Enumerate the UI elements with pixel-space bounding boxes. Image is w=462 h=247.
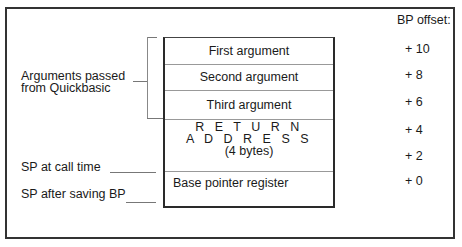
stack-row-first-argument: First argument: [165, 38, 333, 65]
sp-call-pointer-line: [110, 172, 156, 173]
stack-row-base-pointer: Base pointer register: [165, 173, 333, 207]
arguments-passed-label: Arguments passed from Quickbasic: [21, 70, 125, 94]
offset-8: + 8: [405, 68, 423, 82]
stack-row-second-argument: Second argument: [165, 64, 333, 91]
bracket-spine: [147, 37, 148, 118]
offset-4: + 4: [405, 123, 423, 137]
stack-diagram: First argument Second argument Third arg…: [163, 37, 335, 208]
row-label: Third argument: [207, 98, 292, 112]
sp-after-saving-bp-label: SP after saving BP: [21, 188, 126, 200]
row-label: First argument: [209, 44, 290, 58]
sp-at-call-time-label: SP at call time: [21, 161, 101, 173]
label-line: from Quickbasic: [21, 82, 125, 94]
bp-offset-title: BP offset:: [397, 13, 451, 27]
bracket-bottom: [147, 118, 163, 119]
row-label: Base pointer register: [173, 176, 288, 190]
bracket-top: [147, 37, 157, 38]
bracket-pointer: [133, 81, 147, 82]
offset-0: + 0: [405, 174, 423, 188]
offset-10: + 10: [405, 42, 430, 56]
offset-6: + 6: [405, 95, 423, 109]
sp-after-pointer-line: [126, 202, 156, 203]
offset-2: + 2: [405, 149, 423, 163]
row-label: Second argument: [200, 70, 299, 84]
row-label-line: (4 bytes): [225, 145, 274, 157]
stack-row-return-address: R E T U R N A D D R E S S (4 bytes): [165, 119, 333, 172]
stack-row-third-argument: Third argument: [165, 90, 333, 120]
